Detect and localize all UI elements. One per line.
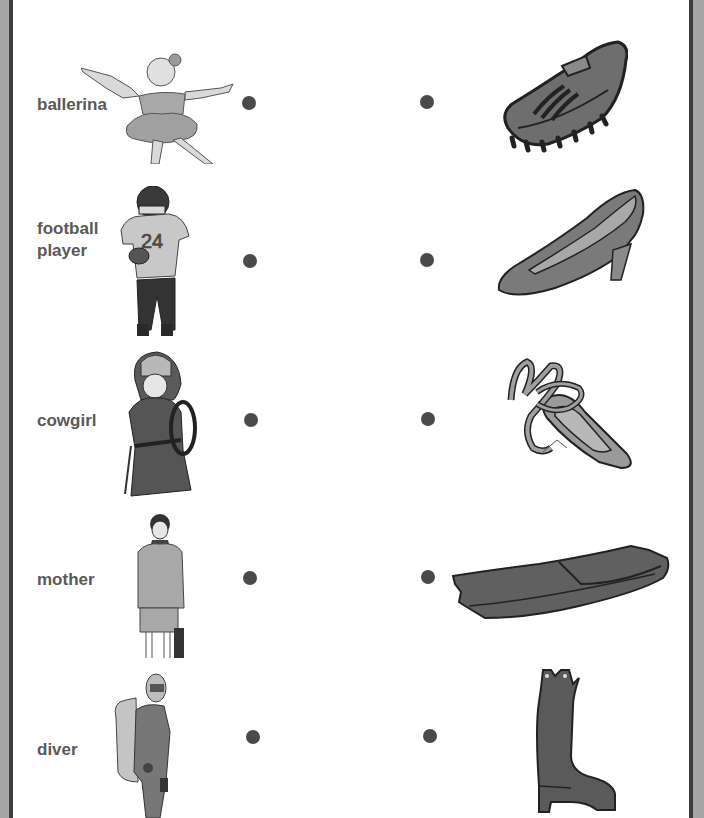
match-dot-left-5[interactable] [246,730,260,744]
match-dot-right-2[interactable] [420,253,434,267]
match-row-5: diver [13,660,689,818]
mother-icon [132,512,192,658]
match-dot-right-4[interactable] [421,570,435,584]
match-dot-left-4[interactable] [243,571,257,585]
football-player-icon: 24 [117,186,197,338]
label-football-player-line2: player [37,240,98,262]
ballet-slipper-icon [507,358,641,476]
match-row-3: cowgirl [13,340,689,500]
match-dot-right-5[interactable] [423,729,437,743]
match-dot-left-2[interactable] [243,254,257,268]
cleat-shoe-icon [498,38,628,156]
label-cowgirl: cowgirl [37,410,97,432]
swim-fin-icon [449,544,677,620]
diver-icon [108,672,188,818]
match-row-4: mother [13,500,689,660]
high-heel-shoe-icon [495,188,645,304]
match-dot-left-1[interactable] [242,96,256,110]
page-border-right-outer [693,0,704,818]
ballerina-icon [81,52,241,164]
match-dot-left-3[interactable] [244,413,258,427]
label-football-player: football player [37,218,98,262]
match-dot-right-1[interactable] [420,95,434,109]
cowgirl-icon [121,350,201,500]
page-border-left-outer [0,0,9,818]
label-football-player-line1: football [37,218,98,240]
label-diver: diver [37,739,78,761]
match-row-2: football player 24 [13,170,689,340]
label-mother: mother [37,569,95,591]
match-dot-right-3[interactable] [421,412,435,426]
match-row-1: ballerina [13,0,689,170]
cowboy-boot-icon [531,666,625,816]
